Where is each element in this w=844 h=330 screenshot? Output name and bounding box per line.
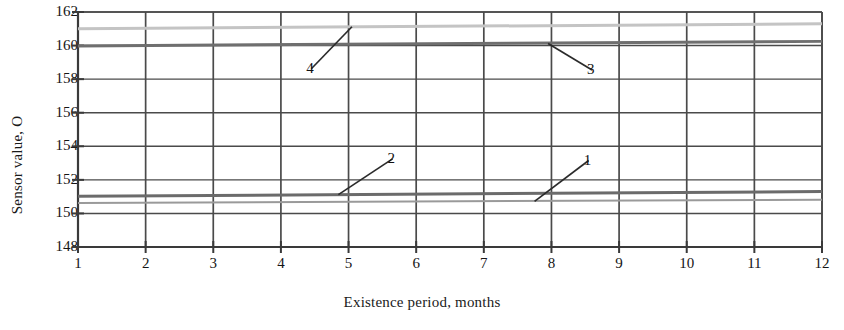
x-tick-label: 1 bbox=[58, 256, 98, 271]
x-tick-label: 7 bbox=[464, 256, 504, 271]
callout-leader-1 bbox=[535, 161, 589, 202]
data-series-line-2 bbox=[78, 192, 822, 197]
x-tick-label: 9 bbox=[599, 256, 639, 271]
series-callout-label-4: 4 bbox=[306, 61, 314, 76]
callout-leader-4 bbox=[311, 27, 352, 69]
x-tick-label: 5 bbox=[329, 256, 369, 271]
series-callout-label-2: 2 bbox=[388, 151, 396, 166]
x-tick-label: 6 bbox=[396, 256, 436, 271]
x-tick-label: 2 bbox=[126, 256, 166, 271]
chart-container: Sensor value, O 148150152154156158160162… bbox=[0, 0, 844, 330]
x-tick-label: 3 bbox=[193, 256, 233, 271]
x-tick-label: 12 bbox=[802, 256, 842, 271]
x-tick-label: 11 bbox=[734, 256, 774, 271]
series-callout-label-1: 1 bbox=[584, 153, 592, 168]
series-callout-label-3: 3 bbox=[587, 62, 595, 77]
x-tick-label: 8 bbox=[531, 256, 571, 271]
callout-leader-2 bbox=[338, 159, 392, 195]
callout-leader-3 bbox=[548, 44, 592, 70]
data-series-line-1 bbox=[78, 200, 822, 203]
data-series-line-4 bbox=[78, 24, 822, 29]
x-tick-label: 4 bbox=[261, 256, 301, 271]
x-axis-title: Existence period, months bbox=[0, 294, 844, 311]
x-tick-label: 10 bbox=[667, 256, 707, 271]
plot-area bbox=[0, 0, 844, 330]
